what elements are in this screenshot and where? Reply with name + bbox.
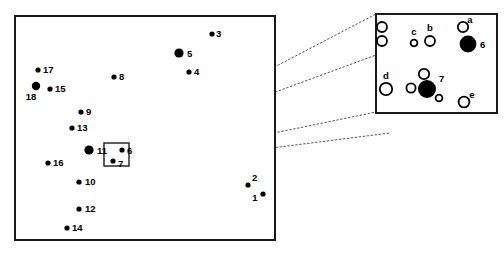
point-marker[interactable] bbox=[425, 36, 435, 46]
point-marker[interactable] bbox=[377, 22, 387, 32]
point-marker[interactable] bbox=[406, 83, 415, 92]
point-marker[interactable] bbox=[64, 225, 69, 230]
point-marker[interactable] bbox=[45, 160, 50, 165]
magnified-inset-panel: cba6d7e bbox=[376, 14, 497, 113]
point-label: 18 bbox=[26, 91, 37, 102]
point-label: 13 bbox=[77, 122, 88, 133]
point-marker[interactable] bbox=[76, 206, 81, 211]
point-label: 2 bbox=[252, 172, 257, 183]
point-marker[interactable] bbox=[380, 83, 392, 95]
point-label: 4 bbox=[194, 66, 200, 77]
point-label: 6 bbox=[127, 145, 132, 156]
point-label: 3 bbox=[216, 28, 221, 39]
point-label: 8 bbox=[119, 71, 124, 82]
point-marker[interactable] bbox=[459, 97, 470, 108]
point-label: b bbox=[427, 22, 433, 33]
main-map-panel: 123456789101112131415161718 bbox=[15, 16, 275, 240]
point-label: d bbox=[383, 70, 389, 81]
main_panel-frame bbox=[15, 16, 275, 240]
point-marker[interactable] bbox=[78, 109, 83, 114]
point-marker[interactable] bbox=[418, 80, 436, 98]
point-marker[interactable] bbox=[47, 86, 52, 91]
point-label: 16 bbox=[53, 157, 64, 168]
point-label: 7 bbox=[439, 73, 444, 84]
point-marker[interactable] bbox=[111, 74, 116, 79]
point-label: 15 bbox=[55, 83, 66, 94]
point-marker[interactable] bbox=[377, 36, 387, 46]
point-marker[interactable] bbox=[32, 82, 40, 90]
point-label: 11 bbox=[97, 145, 108, 156]
point-marker[interactable] bbox=[110, 158, 115, 163]
point-marker[interactable] bbox=[411, 40, 418, 47]
point-marker[interactable] bbox=[76, 179, 81, 184]
point-marker[interactable] bbox=[260, 191, 265, 196]
point-marker[interactable] bbox=[460, 36, 477, 53]
point-label: e bbox=[469, 89, 474, 100]
figure-container: 123456789101112131415161718 cba6d7e bbox=[0, 0, 504, 258]
point-marker[interactable] bbox=[209, 31, 214, 36]
point-label: 17 bbox=[43, 64, 54, 75]
point-label: 14 bbox=[72, 222, 83, 233]
figure-svg: 123456789101112131415161718 cba6d7e bbox=[0, 0, 504, 258]
point-label: 1 bbox=[252, 192, 258, 203]
point-label: 12 bbox=[85, 203, 96, 214]
point-marker[interactable] bbox=[419, 69, 429, 79]
point-marker[interactable] bbox=[35, 67, 40, 72]
point-marker[interactable] bbox=[186, 69, 191, 74]
point-marker[interactable] bbox=[436, 95, 443, 102]
point-label: c bbox=[411, 26, 416, 37]
zoom-region-box[interactable] bbox=[104, 143, 129, 166]
point-label: 6 bbox=[480, 39, 485, 50]
point-marker[interactable] bbox=[174, 48, 183, 57]
point-label: 5 bbox=[187, 48, 193, 59]
point-marker[interactable] bbox=[69, 125, 74, 130]
point-marker[interactable] bbox=[119, 147, 124, 152]
point-label: 9 bbox=[86, 106, 91, 117]
point-label: 10 bbox=[85, 176, 96, 187]
point-marker[interactable] bbox=[245, 182, 250, 187]
point-marker[interactable] bbox=[84, 145, 93, 154]
point-label: 7 bbox=[118, 158, 123, 169]
point-label: a bbox=[467, 14, 473, 25]
